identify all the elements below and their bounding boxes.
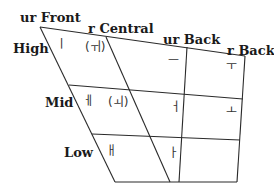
symbol-mid-front-round: (ㅚ) xyxy=(108,95,128,109)
mid-line xyxy=(69,85,243,99)
low-line xyxy=(92,134,240,140)
label-ur-front: ur Front xyxy=(20,10,81,25)
symbol-high-back-unround: ㅡ xyxy=(168,54,179,68)
label-r-back: r Back xyxy=(227,43,274,58)
label-mid: Mid xyxy=(45,95,73,110)
right-edge xyxy=(237,56,245,182)
symbol-mid-back-unround: ㅓ xyxy=(170,100,181,114)
symbol-high-back-round: ㅜ xyxy=(226,59,237,73)
label-high: High xyxy=(13,41,49,56)
symbol-mid-back-round: ㅗ xyxy=(226,104,237,118)
symbol-low-front: ㅐ xyxy=(106,144,117,158)
label-ur-back: ur Back xyxy=(163,32,221,47)
label-low: Low xyxy=(64,145,94,160)
symbol-high-front: ㅣ xyxy=(56,37,67,51)
back-divider xyxy=(179,47,187,182)
symbol-high-front-round: (ㅟ) xyxy=(85,40,105,54)
label-r-central: r Central xyxy=(88,21,154,36)
symbol-low-back: ㅏ xyxy=(168,146,179,160)
central-divider xyxy=(106,37,170,182)
symbol-mid-front: ㅔ xyxy=(83,94,94,108)
vowel-chart: ur Front r Central ur Back r Back High M… xyxy=(0,0,274,193)
